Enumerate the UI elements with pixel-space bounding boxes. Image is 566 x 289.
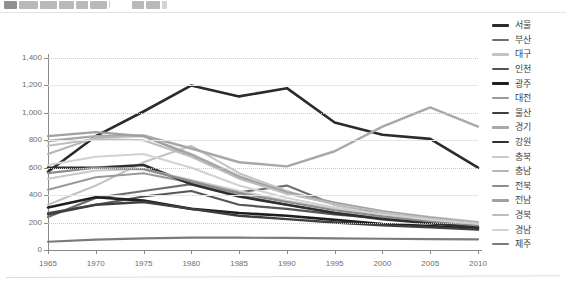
series-line [48, 136, 478, 222]
legend-item[interactable]: 부산 [492, 33, 562, 48]
x-axis-tick-label: 1980 [171, 259, 211, 268]
x-axis-tick-mark [382, 250, 383, 254]
legend-item[interactable]: 경남 [492, 222, 562, 237]
legend-swatch [492, 126, 509, 128]
series-line [48, 238, 478, 242]
legend-item[interactable]: 서울 [492, 18, 562, 33]
x-axis-tick-label: 1965 [28, 259, 68, 268]
legend-label: 서울 [515, 20, 531, 30]
legend-label: 경남 [515, 225, 531, 235]
toolbar-divider [109, 1, 110, 8]
legend-swatch [492, 156, 509, 158]
y-axis-tick-label: 200 [0, 219, 42, 227]
legend-item[interactable]: 전북 [492, 179, 562, 194]
legend-item[interactable]: 경기 [492, 120, 562, 135]
y-axis-tick-mark [44, 168, 48, 169]
legend-swatch [492, 24, 509, 27]
legend-swatch [492, 112, 509, 114]
toolbar-group-menu[interactable] [4, 0, 110, 9]
block-e-icon[interactable] [90, 1, 107, 9]
series-lines [48, 58, 478, 250]
gridline [48, 58, 478, 59]
legend-item[interactable]: 대구 [492, 47, 562, 62]
legend-label: 경북 [515, 210, 531, 220]
legend-swatch [492, 68, 509, 70]
x-axis-tick-label: 2010 [458, 259, 498, 268]
gridline [48, 85, 478, 86]
x-axis-tick-label: 1995 [315, 259, 355, 268]
y-axis-tick-label: 600 [0, 164, 42, 172]
toolbar-bottom-rule [0, 12, 566, 13]
y-axis-tick-mark [44, 58, 48, 59]
y-axis-tick-label: 800 [0, 136, 42, 144]
gridline [48, 168, 478, 169]
legend-item[interactable]: 전남 [492, 193, 562, 208]
legend-item[interactable]: 인천 [492, 62, 562, 77]
y-axis-tick-mark [44, 223, 48, 224]
page-bottom-rule [6, 275, 560, 278]
legend-item[interactable]: 강원 [492, 135, 562, 150]
legend-label: 경기 [515, 122, 531, 132]
x-axis-tick-mark [191, 250, 192, 254]
screenshot-root: 02004006008001,0001,2001,400196519701975… [0, 0, 566, 289]
legend-item[interactable]: 충남 [492, 164, 562, 179]
legend-swatch [492, 97, 509, 99]
x-axis-tick-mark [96, 250, 97, 254]
legend-item[interactable]: 경북 [492, 208, 562, 223]
legend-swatch [492, 199, 509, 201]
legend-swatch [492, 53, 509, 55]
x-axis-tick-mark [287, 250, 288, 254]
chart-card: 02004006008001,0001,2001,400196519701975… [0, 14, 566, 270]
x-axis-tick-mark [430, 250, 431, 254]
y-axis-tick-mark [44, 140, 48, 141]
plot-area [48, 58, 478, 250]
y-axis-tick-label: 1,000 [0, 109, 42, 117]
y-axis-tick-label: 400 [0, 191, 42, 199]
block-b-icon[interactable] [40, 1, 57, 9]
tool-a-icon[interactable] [132, 1, 144, 9]
legend-label: 전남 [515, 195, 531, 205]
gridline [48, 223, 478, 224]
tool-b-icon[interactable] [146, 1, 160, 9]
block-a-icon[interactable] [19, 1, 38, 9]
x-axis-tick-label: 1975 [124, 259, 164, 268]
legend-item[interactable]: 대전 [492, 91, 562, 106]
legend-label: 충북 [515, 152, 531, 162]
legend-label: 충남 [515, 166, 531, 176]
legend-label: 인천 [515, 64, 531, 74]
x-axis-tick-label: 1970 [76, 259, 116, 268]
legend-item[interactable]: 충북 [492, 149, 562, 164]
legend-item[interactable]: 광주 [492, 76, 562, 91]
x-axis-tick-label: 1985 [219, 259, 259, 268]
app-toolbar[interactable] [0, 0, 566, 9]
legend-label: 제주 [515, 239, 531, 249]
tool-c-icon[interactable] [162, 1, 167, 9]
y-axis-tick-label: 0 [0, 246, 42, 254]
grid-icon[interactable] [4, 1, 17, 9]
toolbar-group-tools[interactable] [132, 0, 167, 9]
legend-label: 전북 [515, 181, 531, 191]
series-line [48, 85, 478, 171]
legend-swatch [492, 214, 509, 216]
legend-swatch [492, 141, 509, 144]
block-c-icon[interactable] [59, 1, 74, 9]
legend-swatch [492, 170, 509, 172]
x-axis-tick-label: 2000 [362, 259, 402, 268]
y-axis-tick-mark [44, 85, 48, 86]
chart-legend[interactable]: 서울부산대구인천광주대전울산경기강원충북충남전북전남경북경남제주 [492, 18, 562, 252]
y-axis-tick-label: 1,200 [0, 81, 42, 89]
y-axis-tick-label: 1,400 [0, 54, 42, 62]
block-d-icon[interactable] [76, 1, 88, 9]
legend-item[interactable]: 울산 [492, 106, 562, 121]
x-axis-tick-mark [144, 250, 145, 254]
legend-swatch [492, 229, 509, 231]
y-axis-tick-mark [44, 195, 48, 196]
legend-item[interactable]: 제주 [492, 237, 562, 252]
legend-swatch [492, 185, 509, 187]
legend-label: 부산 [515, 35, 531, 45]
gridline [48, 140, 478, 141]
x-axis-tick-mark [48, 250, 49, 254]
gridline [48, 113, 478, 114]
gridline [48, 195, 478, 196]
x-axis-tick-label: 1990 [267, 259, 307, 268]
